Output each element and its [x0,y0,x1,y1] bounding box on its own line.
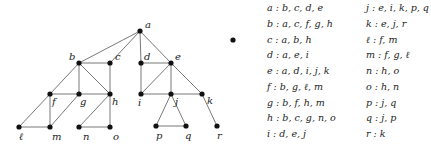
node-label-k: k [207,95,213,106]
edge-b-f [50,63,79,94]
node-label-r: r [217,130,223,141]
node-label-p: p [156,130,163,141]
edge-e-k [171,63,202,94]
adjacency-row-b: b : a, c, f, g, h [267,16,336,32]
edge-a-d [140,31,141,63]
node-label-h: h [112,96,118,107]
edge-e-i [141,63,171,94]
node-a [137,28,142,33]
adjacency-row-n: n : h, o [366,63,429,79]
node-label-g: g [80,96,86,107]
edge-a-b [79,31,140,63]
node-label-o: o [113,131,119,142]
node-label-c: c [115,51,121,62]
graph-nodes: abcdefghijkℓmnopqr [16,19,223,142]
node-label-m: m [52,131,61,142]
adjacency-row-g: g : b, f, h, m [267,95,336,111]
adjacency-list-column-1: a : b, c, d, e b : a, c, f, g, h c : a, … [267,0,336,142]
node-label-f: f [51,96,58,107]
node-label-q: q [185,130,191,141]
node-q [183,123,188,128]
edge-b-h [79,63,110,94]
node-c [107,60,112,65]
edge-j-q [171,94,186,126]
edge-j-p [156,94,171,126]
adjacency-row-p: p : j, q [366,95,429,111]
node-r [214,123,219,128]
node-j [168,91,173,96]
node-label-b: b [69,51,75,62]
node-k [199,91,204,96]
adjacency-row-c: c : a, b, h [267,32,336,48]
adjacency-row-h: h : b, c, g, n, o [267,110,336,126]
adjacency-row-m: m : f, g, ℓ [366,47,429,63]
isolated-dot [230,37,235,42]
node-label-e: e [175,51,181,62]
edge-f-l [19,94,50,127]
node-o [107,124,112,129]
node-label-l: ℓ [19,131,23,142]
node-label-n: n [83,131,89,142]
node-i [138,91,143,96]
node-label-d: d [144,51,150,62]
adjacency-row-f: f : b, g, ℓ, m [267,79,336,95]
adjacency-row-a: a : b, c, d, e [267,0,336,16]
node-e [168,60,173,65]
adjacency-row-o: o : h, n [366,79,429,95]
adjacency-row-j: j : e, i, k, p, q [366,0,429,16]
node-m [47,124,52,129]
adjacency-row-d: d : a, e, i [267,47,336,63]
node-p [153,123,158,128]
adjacency-row-i: i : d, e, j [267,126,336,142]
adjacency-row-r: r : k [366,126,429,142]
node-d [138,60,143,65]
node-b [76,60,81,65]
graph-edges [19,31,217,127]
node-label-j: j [173,96,178,107]
adjacency-row-l: ℓ : f, m [366,32,429,48]
adjacency-row-e: e : a, d, i, j, k [267,63,336,79]
node-l [16,124,21,129]
node-label-a: a [145,19,151,30]
node-label-i: i [138,97,141,108]
graph-diagram: abcdefghijkℓmnopqr [0,0,250,149]
node-n [76,124,81,129]
adjacency-row-q: q : j, p [366,110,429,126]
adjacency-row-k: k : e, j, r [366,16,429,32]
adjacency-list-column-2: j : e, i, k, p, q k : e, j, r ℓ : f, m m… [366,0,429,142]
